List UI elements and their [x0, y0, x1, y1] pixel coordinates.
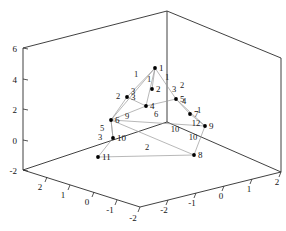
xtick-m2 — [138, 207, 140, 212]
edge-weight-label: 6 — [154, 109, 158, 119]
xtick-1 — [68, 185, 70, 190]
node-marker — [109, 118, 113, 122]
edge-weight-label: 10 — [189, 132, 198, 142]
graph-edge — [111, 120, 113, 138]
ztick-6 — [23, 48, 28, 49]
graph-node[interactable]: 11 — [96, 152, 111, 162]
node-marker — [96, 155, 100, 159]
x-tick-label: 0 — [85, 197, 90, 207]
scatter3d-figure: 6 4 2 0 -2 2 1 0 -1 -2 -2 -1 0 1 2 12345… — [0, 0, 286, 231]
ztick-2 — [23, 109, 28, 110]
edge-weight-label: 2 — [180, 80, 184, 90]
graph-node[interactable]: 8 — [192, 150, 203, 160]
edge-weight-label: 9 — [125, 111, 129, 121]
node-label: 1 — [159, 63, 164, 73]
edge-weight-label: 3 — [172, 84, 176, 94]
node-label: 11 — [102, 152, 111, 162]
node-marker — [144, 104, 148, 108]
node-marker — [153, 66, 157, 70]
box-edge-floor-back-right — [167, 122, 281, 172]
xtick-m1 — [115, 200, 117, 205]
z-tick-label: 2 — [13, 105, 18, 115]
box-edge-back-left-top — [23, 11, 167, 48]
graph-edge — [98, 155, 194, 157]
xtick-2 — [45, 177, 47, 182]
y-tick-label: -1 — [188, 198, 196, 208]
graph-edge — [127, 97, 146, 106]
node-marker — [188, 112, 192, 116]
edge-weight-label: 12 — [192, 118, 201, 128]
x-tick-label: 2 — [38, 182, 43, 192]
edge-weight-label: 4 — [182, 96, 187, 106]
x-tick-label: -2 — [129, 213, 137, 223]
ztick-4 — [23, 79, 28, 80]
edge-weight-label: 1 — [147, 74, 151, 84]
edge-weight-label: 2 — [116, 91, 120, 101]
plot-canvas: 6 4 2 0 -2 2 1 0 -1 -2 -2 -1 0 1 2 12345… — [0, 0, 286, 231]
edge-weight-label: 1 — [197, 105, 201, 115]
node-marker — [203, 124, 207, 128]
node-marker — [174, 97, 178, 101]
y-tick-label: 0 — [219, 191, 224, 201]
node-marker — [111, 136, 115, 140]
graph-node[interactable]: 10 — [111, 133, 126, 143]
graph-node[interactable]: 6 — [109, 115, 120, 125]
y-tick-labels: -2 -1 0 1 2 — [160, 177, 279, 215]
z-tick-labels: 6 4 2 0 -2 — [10, 44, 18, 176]
z-tick-label: 6 — [13, 44, 18, 54]
z-tick-label: 4 — [13, 75, 18, 85]
x-tick-labels: 2 1 0 -1 -2 — [38, 182, 137, 223]
node-marker — [150, 87, 154, 91]
ztick-0 — [23, 140, 28, 141]
node-label: 2 — [156, 84, 161, 94]
node-marker — [125, 95, 129, 99]
y-tick-label: -2 — [160, 205, 168, 215]
node-label: 10 — [117, 133, 127, 143]
node-label: 6 — [115, 115, 120, 125]
edge-weight-label: 1 — [134, 69, 138, 79]
axis-ticks — [23, 48, 281, 212]
x-tick-label: 1 — [61, 190, 66, 200]
box-edge-floor-right — [140, 172, 281, 207]
node-marker — [192, 153, 196, 157]
y-tick-label: 1 — [247, 184, 252, 194]
graph-node[interactable]: 9 — [203, 121, 214, 131]
z-tick-label: -2 — [10, 166, 18, 176]
edge-weight-label: 1 — [165, 72, 169, 82]
x-tick-label: -1 — [106, 205, 114, 215]
edge-weight-label: 2 — [145, 142, 149, 152]
y-tick-label: 2 — [275, 177, 280, 187]
node-label: 8 — [198, 150, 203, 160]
ztick-m2 — [23, 170, 28, 171]
edge-weight-label: 3 — [98, 132, 102, 142]
node-label: 9 — [209, 121, 214, 131]
z-tick-label: 0 — [13, 136, 18, 146]
edge-weight-label: 10 — [171, 124, 180, 134]
xtick-0 — [92, 192, 94, 197]
edge-weight-label: 3 — [131, 86, 135, 96]
box-edge-back-right-top — [167, 11, 281, 58]
graph-node[interactable]: 2 — [150, 84, 160, 94]
